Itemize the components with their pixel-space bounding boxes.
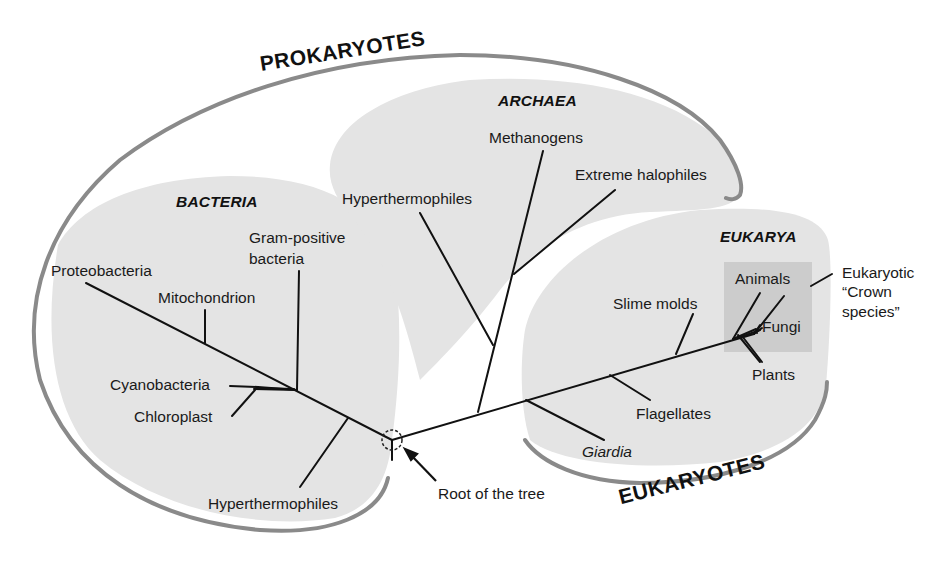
taxon-slime-molds: Slime molds (613, 295, 697, 313)
taxon-fungi: Fungi (762, 318, 801, 336)
taxon-bacteria-hyperthermophiles: Hyperthermophiles (208, 495, 338, 513)
taxon-animals: Animals (735, 270, 790, 288)
taxon-plants: Plants (752, 366, 795, 384)
taxon-mitochondrion: Mitochondrion (158, 289, 255, 307)
taxon-giardia: Giardia (582, 443, 632, 461)
taxon-proteobacteria: Proteobacteria (51, 262, 152, 280)
taxon-flagellates: Flagellates (636, 405, 711, 423)
root-of-tree-label: Root of the tree (438, 485, 545, 503)
domain-archaea: ARCHAEA (498, 92, 577, 110)
domain-bacteria: BACTERIA (176, 193, 258, 211)
taxon-gram-positive-line2: bacteria (249, 250, 304, 268)
root-arrow-icon (405, 449, 436, 481)
taxon-cyanobacteria: Cyanobacteria (110, 376, 210, 394)
bacteria-region (51, 176, 399, 521)
crown-species-label-line1: Eukaryotic (842, 264, 914, 282)
taxon-extreme-halophiles: Extreme halophiles (575, 166, 707, 184)
taxon-archaea-hyperthermophiles: Hyperthermophiles (342, 190, 472, 208)
crown-species-label-line2: “Crown (842, 283, 892, 301)
taxon-gram-positive-line1: Gram-positive (249, 229, 345, 247)
taxon-chloroplast: Chloroplast (134, 408, 212, 426)
taxon-methanogens: Methanogens (489, 129, 583, 147)
crown-species-label-line3: species” (842, 303, 900, 321)
domain-eukarya: EUKARYA (720, 228, 797, 246)
